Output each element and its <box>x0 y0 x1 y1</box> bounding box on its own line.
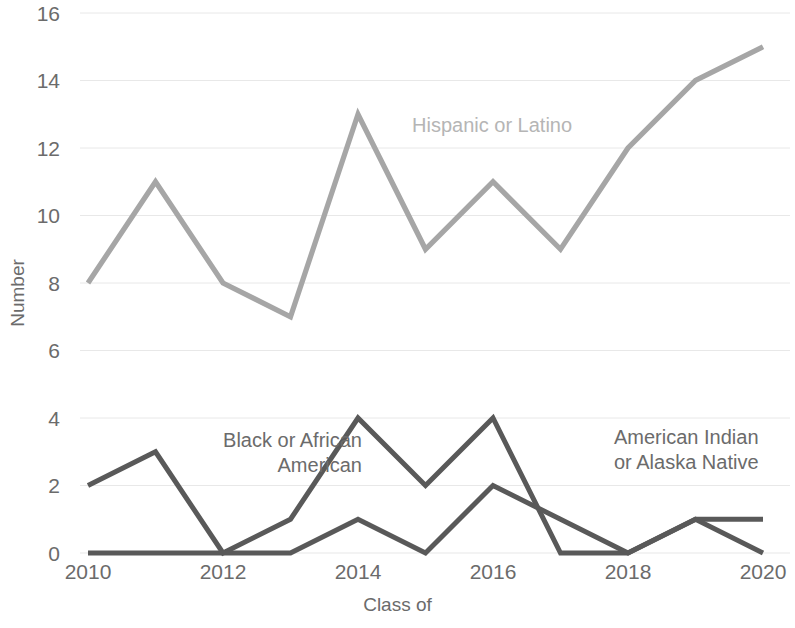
y-tick-label-14: 14 <box>14 69 60 93</box>
series-label-black-or-african-american: Black or African American <box>150 428 362 478</box>
x-tick-label-2010: 2010 <box>43 560 133 584</box>
y-tick-label-16: 16 <box>14 2 60 26</box>
x-tick-label-2016: 2016 <box>448 560 538 584</box>
y-tick-label-4: 4 <box>14 407 60 431</box>
x-tick-label-2020: 2020 <box>718 560 795 584</box>
line-chart: 16 14 12 10 8 6 4 2 0 2010 2012 2014 201… <box>0 0 795 628</box>
x-axis-title: Class of <box>0 594 795 616</box>
y-axis-title: Number <box>7 243 29 343</box>
y-tick-label-10: 10 <box>14 204 60 228</box>
series-line <box>88 47 763 317</box>
x-tick-label-2018: 2018 <box>583 560 673 584</box>
series-line <box>88 486 763 554</box>
x-tick-label-2012: 2012 <box>178 560 268 584</box>
y-tick-label-2: 2 <box>14 474 60 498</box>
series-label-hispanic-or-latino: Hispanic or Latino <box>412 113 572 138</box>
y-tick-label-12: 12 <box>14 137 60 161</box>
series-label-american-indian-or-alaska-native: American Indian or Alaska Native <box>614 425 795 475</box>
chart-plot-area <box>0 0 795 628</box>
x-tick-label-2014: 2014 <box>313 560 403 584</box>
